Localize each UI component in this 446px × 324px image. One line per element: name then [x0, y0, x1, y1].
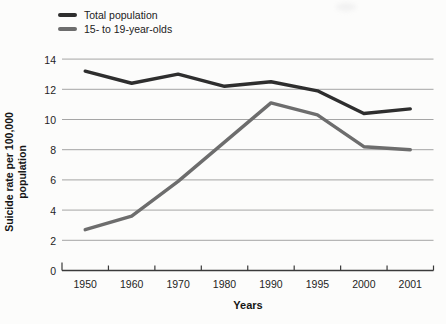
- y-tick-label: 6: [30, 174, 56, 186]
- x-tick-label: 2001: [387, 278, 433, 290]
- y-tick-label: 10: [30, 114, 56, 126]
- x-tick-label: 1970: [155, 278, 201, 290]
- x-tick-label: 1990: [248, 278, 294, 290]
- x-tick-label: 1960: [109, 278, 155, 290]
- y-tick-label: 14: [30, 54, 56, 66]
- y-tick-label: 0: [30, 265, 56, 277]
- chart-svg: [0, 0, 446, 324]
- y-tick-label: 4: [30, 205, 56, 217]
- series-line-15-to-19-year-olds: [85, 103, 410, 230]
- x-axis-title: Years: [62, 299, 434, 311]
- y-tick-label: 2: [30, 235, 56, 247]
- x-tick-label: 1995: [294, 278, 340, 290]
- y-tick-label: 8: [30, 144, 56, 156]
- x-tick-label: 2000: [341, 278, 387, 290]
- x-tick-label: 1950: [62, 278, 108, 290]
- chart-figure: Total population 15- to 19-year-olds Sui…: [0, 0, 446, 324]
- series-line-total-population: [85, 71, 410, 113]
- y-tick-label: 12: [30, 84, 56, 96]
- x-tick-label: 1980: [202, 278, 248, 290]
